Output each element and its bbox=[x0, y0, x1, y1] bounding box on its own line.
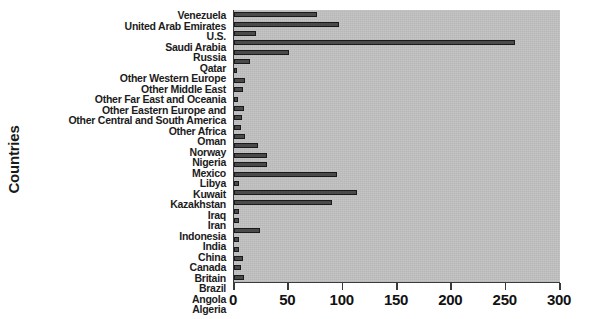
bar-row bbox=[234, 94, 560, 103]
bar-series-group bbox=[234, 10, 560, 282]
x-axis-tick-label: 0 bbox=[229, 291, 237, 308]
bar bbox=[234, 125, 241, 130]
x-axis-tick-mark bbox=[396, 283, 398, 290]
bar bbox=[234, 247, 239, 252]
bar-row bbox=[234, 273, 560, 282]
bar bbox=[234, 40, 515, 45]
x-axis-tick-mark bbox=[342, 283, 344, 290]
bar-row bbox=[234, 48, 560, 57]
bar-row bbox=[234, 19, 560, 28]
x-axis-tick-mark bbox=[559, 283, 561, 290]
bar-row bbox=[234, 123, 560, 132]
bar-row bbox=[234, 160, 560, 169]
bar bbox=[234, 265, 241, 270]
x-axis-tick-mark bbox=[287, 283, 289, 290]
y-axis-title: Countries bbox=[0, 0, 26, 319]
bar-row bbox=[234, 235, 560, 244]
y-axis-tick-label: Other Far East and Oceania bbox=[30, 94, 230, 105]
bar-row bbox=[234, 151, 560, 160]
bar bbox=[234, 190, 357, 195]
y-axis-tick-label: Libya bbox=[30, 178, 230, 189]
y-axis-tick-label: Brazil bbox=[30, 283, 230, 294]
x-axis-tick-label: 250 bbox=[493, 291, 517, 308]
bar-row bbox=[234, 254, 560, 263]
y-axis-tick-label: Algeria bbox=[30, 304, 230, 315]
bar-row bbox=[234, 226, 560, 235]
y-axis-tick-label: Iran bbox=[30, 220, 230, 231]
bar bbox=[234, 59, 250, 64]
x-axis-tick-mark bbox=[233, 283, 235, 290]
y-axis-tick-label: Oman bbox=[30, 136, 230, 147]
y-axis-tick-label: Canada bbox=[30, 262, 230, 273]
bar bbox=[234, 228, 260, 233]
bar bbox=[234, 78, 245, 83]
bar bbox=[234, 68, 237, 73]
bar-row bbox=[234, 198, 560, 207]
y-axis-tick-label: Venezuela bbox=[30, 10, 230, 21]
bar bbox=[234, 134, 245, 139]
x-axis-tick-label: 50 bbox=[279, 291, 295, 308]
bar-row bbox=[234, 104, 560, 113]
x-axis-tick-label: 200 bbox=[438, 291, 462, 308]
x-axis-tick-label: 150 bbox=[384, 291, 408, 308]
bar-row bbox=[234, 29, 560, 38]
y-axis-tick-label: Indonesia bbox=[30, 231, 230, 242]
bar-chart-figure: Countries VenezuelaUnited Arab EmiratesU… bbox=[0, 0, 595, 319]
x-axis-tick-mark bbox=[505, 283, 507, 290]
y-axis-tick-label: Iraq bbox=[30, 210, 230, 221]
bar-row bbox=[234, 66, 560, 75]
bar-row bbox=[234, 179, 560, 188]
bar bbox=[234, 106, 244, 111]
bar bbox=[234, 209, 239, 214]
y-axis-tick-label: Other Western Europe bbox=[30, 73, 230, 84]
bar-row bbox=[234, 10, 560, 19]
bar bbox=[234, 143, 258, 148]
bar bbox=[234, 97, 238, 102]
bar bbox=[234, 181, 239, 186]
bar bbox=[234, 218, 239, 223]
bar bbox=[234, 162, 267, 167]
bar bbox=[234, 22, 339, 27]
bar bbox=[234, 50, 289, 55]
bar bbox=[234, 12, 317, 17]
y-axis-tick-label: Russia bbox=[30, 52, 230, 63]
bar-row bbox=[234, 263, 560, 272]
x-axis-tick-mark-group bbox=[233, 283, 561, 290]
x-axis-tick-label-group: 050100150200250300 bbox=[233, 291, 561, 313]
bar-row bbox=[234, 57, 560, 66]
bar-row bbox=[234, 85, 560, 94]
bar-row bbox=[234, 216, 560, 225]
x-axis-tick-mark bbox=[450, 283, 452, 290]
bar-row bbox=[234, 169, 560, 178]
x-axis-tick-label: 100 bbox=[330, 291, 354, 308]
bar bbox=[234, 31, 256, 36]
y-axis-tick-label-group: VenezuelaUnited Arab EmiratesU.S.Saudi A… bbox=[30, 10, 230, 282]
x-axis-tick-label: 300 bbox=[547, 291, 571, 308]
y-axis-tick-label: Nigeria bbox=[30, 157, 230, 168]
bar-row bbox=[234, 207, 560, 216]
bar-row bbox=[234, 38, 560, 47]
bar bbox=[234, 275, 244, 280]
bar-row bbox=[234, 113, 560, 122]
bar-row bbox=[234, 132, 560, 141]
bar bbox=[234, 237, 239, 242]
bar-row bbox=[234, 76, 560, 85]
plot-area bbox=[233, 10, 560, 283]
bar bbox=[234, 153, 267, 158]
bar bbox=[234, 87, 243, 92]
bar-row bbox=[234, 188, 560, 197]
bar bbox=[234, 256, 243, 261]
y-axis-tick-label: Other Central and South America bbox=[30, 115, 230, 126]
y-axis-tick-label: India bbox=[30, 241, 230, 252]
bar bbox=[234, 115, 242, 120]
bar bbox=[234, 200, 332, 205]
bar bbox=[234, 172, 337, 177]
y-axis-tick-label: U.S. bbox=[30, 31, 230, 42]
y-axis-tick-label: United Arab Emirates bbox=[30, 21, 230, 32]
y-axis-tick-label: Kazakhstan bbox=[30, 199, 230, 210]
bar-row bbox=[234, 244, 560, 253]
bar-row bbox=[234, 141, 560, 150]
